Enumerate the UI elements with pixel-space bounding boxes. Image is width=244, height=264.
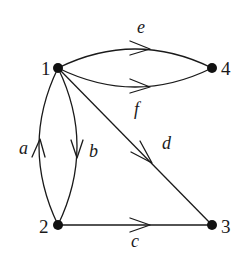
node-3 (207, 220, 217, 230)
edge-b (58, 68, 77, 225)
node-4 (207, 63, 217, 73)
node-label-1: 1 (41, 58, 51, 79)
edge-label-f: f (134, 99, 142, 119)
arrow-f-icon (130, 79, 150, 93)
edge-e (58, 49, 212, 68)
edge-label-a: a (19, 138, 28, 158)
node-1 (53, 63, 63, 73)
node-label-2: 2 (39, 216, 49, 237)
graph-diagram: 1 2 3 4 a b c d e f (0, 0, 244, 264)
edge-label-d: d (162, 133, 172, 153)
node-label-3: 3 (221, 216, 231, 237)
edge-label-b: b (89, 141, 98, 161)
node-2 (53, 220, 63, 230)
edge-label-c: c (131, 231, 139, 251)
node-label-4: 4 (221, 58, 231, 79)
edge-f (58, 68, 212, 87)
arrow-e-icon (130, 41, 150, 55)
edge-label-e: e (137, 17, 145, 37)
